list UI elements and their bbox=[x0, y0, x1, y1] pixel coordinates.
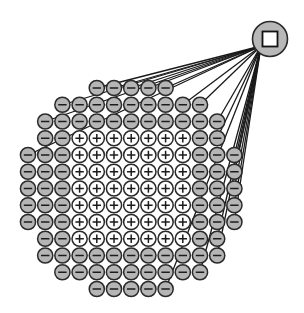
positive-charge bbox=[72, 181, 87, 196]
negative-charge bbox=[106, 265, 121, 280]
negative-charge bbox=[192, 131, 207, 146]
negative-charge bbox=[106, 80, 121, 95]
negative-charge bbox=[124, 114, 139, 129]
negative-charge bbox=[192, 147, 207, 162]
negative-charge bbox=[38, 214, 53, 229]
positive-charge bbox=[158, 214, 173, 229]
negative-charge bbox=[55, 214, 70, 229]
positive-charge bbox=[106, 164, 121, 179]
positive-charge bbox=[89, 164, 104, 179]
negative-charge bbox=[38, 248, 53, 263]
negative-charge bbox=[141, 80, 156, 95]
negative-charge bbox=[20, 147, 35, 162]
positive-charge bbox=[72, 231, 87, 246]
negative-charge bbox=[192, 164, 207, 179]
negative-charge bbox=[141, 114, 156, 129]
negative-charge bbox=[210, 198, 225, 213]
negative-charge bbox=[192, 97, 207, 112]
negative-charge bbox=[55, 114, 70, 129]
negative-charge bbox=[175, 248, 190, 263]
positive-charge bbox=[72, 131, 87, 146]
negative-charge bbox=[106, 114, 121, 129]
positive-charge bbox=[106, 214, 121, 229]
negative-charge bbox=[192, 198, 207, 213]
negative-charge bbox=[175, 97, 190, 112]
negative-charge bbox=[227, 181, 242, 196]
positive-charge bbox=[158, 131, 173, 146]
positive-charge bbox=[89, 181, 104, 196]
negative-charge bbox=[38, 147, 53, 162]
positive-charge bbox=[175, 131, 190, 146]
negative-charge bbox=[124, 281, 139, 296]
negative-charge bbox=[210, 181, 225, 196]
negative-charge bbox=[210, 147, 225, 162]
diagram-canvas bbox=[0, 0, 304, 313]
negative-charge bbox=[124, 248, 139, 263]
positive-charge bbox=[141, 198, 156, 213]
negative-charge bbox=[175, 114, 190, 129]
positive-charge bbox=[124, 131, 139, 146]
negative-charge bbox=[55, 131, 70, 146]
negative-charge bbox=[141, 281, 156, 296]
square-icon bbox=[263, 32, 278, 47]
electrode-hub bbox=[253, 22, 288, 57]
negative-charge bbox=[89, 114, 104, 129]
negative-charge bbox=[141, 248, 156, 263]
negative-charge bbox=[72, 248, 87, 263]
negative-charge bbox=[55, 181, 70, 196]
negative-charge bbox=[158, 281, 173, 296]
negative-charge bbox=[141, 97, 156, 112]
positive-charge bbox=[124, 147, 139, 162]
negative-charge bbox=[124, 97, 139, 112]
negative-charge bbox=[55, 164, 70, 179]
negative-charge bbox=[175, 265, 190, 280]
negative-charge bbox=[72, 265, 87, 280]
negative-charge bbox=[89, 265, 104, 280]
negative-charge bbox=[72, 97, 87, 112]
negative-charge bbox=[55, 97, 70, 112]
negative-charge bbox=[38, 114, 53, 129]
negative-charge bbox=[227, 147, 242, 162]
negative-charge bbox=[89, 80, 104, 95]
negative-charge bbox=[55, 265, 70, 280]
positive-charge bbox=[124, 164, 139, 179]
negative-charge bbox=[210, 131, 225, 146]
positive-charge bbox=[106, 147, 121, 162]
negative-charge bbox=[55, 198, 70, 213]
negative-charge bbox=[72, 114, 87, 129]
negative-charge bbox=[55, 147, 70, 162]
negative-charge bbox=[192, 265, 207, 280]
charge-diagram bbox=[0, 0, 304, 313]
negative-charge bbox=[192, 214, 207, 229]
positive-charge bbox=[158, 164, 173, 179]
positive-charge bbox=[175, 231, 190, 246]
negative-charge bbox=[106, 248, 121, 263]
negative-charge bbox=[20, 198, 35, 213]
negative-charge bbox=[20, 164, 35, 179]
positive-charge bbox=[141, 131, 156, 146]
positive-charge bbox=[141, 181, 156, 196]
negative-charge bbox=[20, 214, 35, 229]
positive-charge bbox=[141, 164, 156, 179]
negative-charge bbox=[55, 248, 70, 263]
negative-charge bbox=[158, 97, 173, 112]
negative-charge bbox=[89, 248, 104, 263]
positive-charge bbox=[106, 181, 121, 196]
positive-charge bbox=[158, 147, 173, 162]
positive-charge bbox=[89, 214, 104, 229]
positive-charge bbox=[89, 131, 104, 146]
negative-charge bbox=[55, 231, 70, 246]
positive-charge bbox=[158, 198, 173, 213]
negative-charge bbox=[38, 164, 53, 179]
positive-charge bbox=[175, 147, 190, 162]
negative-charge bbox=[124, 265, 139, 280]
positive-charge bbox=[106, 198, 121, 213]
charge-grid bbox=[20, 80, 242, 296]
positive-charge bbox=[72, 198, 87, 213]
negative-charge bbox=[38, 131, 53, 146]
negative-charge bbox=[158, 114, 173, 129]
negative-charge bbox=[158, 248, 173, 263]
positive-charge bbox=[175, 181, 190, 196]
positive-charge bbox=[124, 198, 139, 213]
negative-charge bbox=[210, 114, 225, 129]
